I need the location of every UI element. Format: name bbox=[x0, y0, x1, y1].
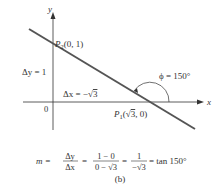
delta-y-label: Δy = 1 bbox=[22, 67, 46, 77]
formula-frac1-den: Δx bbox=[65, 162, 75, 172]
formula-frac2-num: 1 − 0 bbox=[97, 151, 115, 161]
formula-eq3: = tan 150° bbox=[149, 156, 187, 166]
diagram-canvas: y x 0 P2(0, 1) P1(√3, 0) Δy = 1 Δx = −√3… bbox=[0, 0, 219, 188]
point-p1-label: P1(√3, 0) bbox=[113, 109, 147, 120]
angle-arc bbox=[134, 82, 169, 102]
slope-formula: m = Δy Δx = 1 − 0 0 − √3 = 1 −√3 = tan 1… bbox=[36, 151, 187, 172]
formula-frac1-num: Δy bbox=[65, 151, 75, 161]
y-axis-label: y bbox=[47, 4, 52, 14]
x-axis-label: x bbox=[206, 97, 211, 107]
formula-m: m = bbox=[36, 156, 51, 166]
formula-eq2: = bbox=[122, 156, 127, 166]
origin-label: 0 bbox=[44, 104, 48, 114]
angle-label: ϕ = 150° bbox=[159, 71, 191, 81]
delta-x-label: Δx = −√3 bbox=[63, 89, 98, 99]
formula-frac3-num: 1 bbox=[137, 151, 141, 161]
formula-frac2-den: 0 − √3 bbox=[95, 162, 117, 172]
formula-eq1: = bbox=[82, 156, 87, 166]
x-axis-arrow-icon bbox=[197, 100, 204, 105]
formula-frac3-den: −√3 bbox=[132, 162, 146, 172]
caption: (b) bbox=[115, 174, 126, 184]
point-p2-label: P2(0, 1) bbox=[54, 39, 83, 50]
